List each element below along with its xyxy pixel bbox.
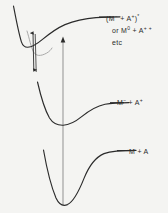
label-excited-sup-star: *: [137, 13, 139, 19]
label-excited-text-mid: + A: [118, 15, 131, 22]
label-excited-state-line2: or M0 + A+ +: [112, 26, 152, 35]
label-excited2-text-pre: or M: [112, 27, 127, 34]
label-ionpair-text-mid: + A: [126, 99, 139, 106]
label-ground-state: M + A: [129, 147, 149, 156]
label-excited-text-pre: (M: [106, 15, 115, 22]
label-ionpair-sup-a: +: [140, 97, 143, 103]
label-excited2-sup-a: + +: [144, 25, 152, 31]
label-excited-state-line1: (M− + A+)*: [106, 14, 140, 23]
label-excited-state-line3: etc: [112, 38, 122, 47]
label-ion-pair-state: M− + A+: [117, 98, 143, 107]
label-excited2-text-mid: + A: [130, 27, 143, 34]
